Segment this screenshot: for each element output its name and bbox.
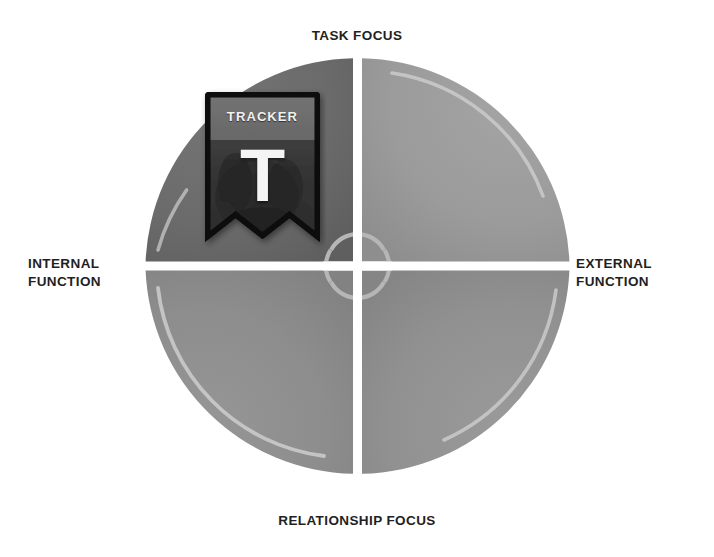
quadrant-wheel — [0, 0, 714, 557]
quadrant-bottom-left[interactable] — [146, 271, 353, 474]
badge-ribbon-icon — [199, 87, 326, 254]
quadrant-top-right[interactable] — [362, 58, 569, 261]
diagram-canvas: TASK FOCUS INTERNAL FUNCTION EXTERNAL FU… — [0, 0, 714, 557]
tracker-badge[interactable]: TRACKER T — [199, 87, 326, 254]
quadrant-bottom-right[interactable] — [362, 271, 569, 474]
